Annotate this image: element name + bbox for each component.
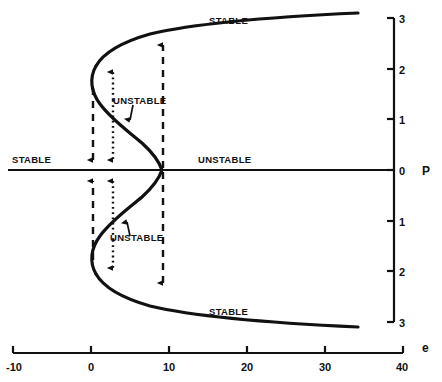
lower-unstable-branch-path (92, 170, 162, 274)
y-axis-tick-labels: 3 2 1 0 1 2 3 (399, 13, 405, 329)
label-unstable-axis: UNSTABLE (198, 154, 251, 165)
y-tick-label: 3 (399, 317, 405, 329)
y-axis (387, 18, 394, 322)
label-stable-left: STABLE (12, 154, 51, 165)
x-tick-label: -10 (6, 361, 22, 373)
y-tick-label: 0 (399, 165, 405, 177)
x-axis-title: e (422, 341, 429, 355)
x-tick-label: 40 (396, 361, 408, 373)
y-tick-label: 2 (399, 64, 405, 76)
diagram-canvas: STABLE STABLE STABLE UNSTABLE UNSTABLE U… (0, 0, 442, 382)
label-stable-lower: STABLE (209, 306, 248, 317)
x-axis (13, 346, 403, 353)
x-tick-label: 30 (319, 361, 331, 373)
y-tick-label: 1 (399, 216, 405, 228)
x-axis-tick-labels: -10 0 10 20 30 40 (6, 361, 408, 373)
x-tick-label: 10 (163, 361, 175, 373)
lower-stable-branch-path (96, 274, 358, 327)
bifurcation-diagram-figure: STABLE STABLE STABLE UNSTABLE UNSTABLE U… (0, 0, 442, 382)
y-axis-title: P (422, 164, 430, 178)
unstable-upper-pointer (130, 105, 133, 120)
y-tick-label: 1 (399, 114, 405, 126)
label-stable-upper: STABLE (209, 15, 248, 26)
label-unstable-upper: UNSTABLE (113, 95, 166, 106)
x-tick-label: 0 (88, 361, 94, 373)
upper-unstable-branch-path (92, 66, 162, 170)
y-tick-label: 2 (399, 266, 405, 278)
label-unstable-lower: UNSTABLE (110, 232, 163, 243)
y-tick-label: 3 (399, 13, 405, 25)
x-tick-label: 20 (241, 361, 253, 373)
